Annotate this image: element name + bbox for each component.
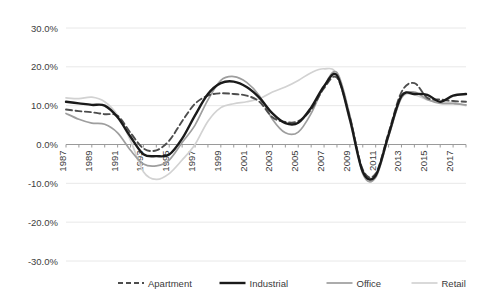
legend-label-office[interactable]: Office <box>357 278 382 289</box>
legend-label-apartment[interactable]: Apartment <box>148 278 192 289</box>
x-axis-tick-label: 2015 <box>418 151 429 172</box>
y-axis-tick-label: 0.0% <box>36 139 58 150</box>
y-axis-tick-label: -10.0% <box>28 178 59 189</box>
x-axis-tick-label: 2017 <box>444 151 455 172</box>
x-axis-labels: 1987198919911993199519971999200120032005… <box>57 151 455 172</box>
x-axis-tick-label: 2005 <box>289 151 300 172</box>
x-axis-tick-label: 1999 <box>212 151 223 172</box>
x-axis-tick-label: 2001 <box>238 151 249 172</box>
legend: ApartmentIndustrialOfficeRetail <box>118 278 466 289</box>
legend-label-industrial[interactable]: Industrial <box>250 278 289 289</box>
y-axis-tick-label: 20.0% <box>31 61 58 72</box>
y-axis-tick-label: -20.0% <box>28 217 59 228</box>
x-axis-tick-label: 2007 <box>315 151 326 172</box>
chart-container: 30.0%20.0%10.0%0.0%-10.0%-20.0%-30.0% 19… <box>0 0 481 301</box>
y-axis-tick-label: 30.0% <box>31 23 58 34</box>
x-axis-tick-label: 1991 <box>109 151 120 172</box>
x-axis-tick-label: 1989 <box>83 151 94 172</box>
x-axis-tick-label: 2013 <box>392 151 403 172</box>
legend-label-retail[interactable]: Retail <box>442 278 466 289</box>
y-axis-tick-label: -30.0% <box>28 256 59 267</box>
y-axis-labels: 30.0%20.0%10.0%0.0%-10.0%-20.0%-30.0% <box>28 23 59 267</box>
y-axis-tick-label: 10.0% <box>31 100 58 111</box>
x-axis-tick-label: 2011 <box>367 151 378 171</box>
line-chart-plot: 30.0%20.0%10.0%0.0%-10.0%-20.0%-30.0% 19… <box>0 0 481 301</box>
x-axis-tick-label: 1987 <box>57 151 68 172</box>
x-axis-tick-label: 2003 <box>263 151 274 172</box>
x-axis-tick-label: 2009 <box>341 151 352 172</box>
